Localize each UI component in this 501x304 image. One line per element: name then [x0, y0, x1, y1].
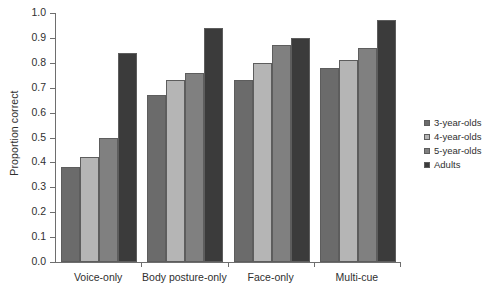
- bar: [377, 20, 396, 262]
- legend-swatch-icon: [424, 162, 430, 168]
- legend-label: Adults: [434, 159, 460, 170]
- bars-layer: [56, 13, 401, 262]
- bar: [147, 95, 166, 262]
- plot-area: 0.00.10.20.30.40.50.60.70.80.91.0 Voice-…: [55, 13, 400, 262]
- y-axis-tick-label: 1.0: [31, 6, 46, 18]
- x-axis-tick-mark: [141, 262, 142, 267]
- bar: [61, 167, 80, 262]
- y-axis-tick-mark: [50, 88, 55, 89]
- bar: [253, 63, 272, 262]
- legend-label: 5-year-olds: [434, 145, 482, 156]
- bar: [80, 157, 99, 262]
- y-axis-tick-mark: [50, 13, 55, 14]
- bar-chart-figure: Proportion correct 0.00.10.20.30.40.50.6…: [0, 0, 501, 304]
- legend-swatch-icon: [424, 148, 430, 154]
- y-axis-tick-mark: [50, 237, 55, 238]
- y-axis-tick-mark: [50, 187, 55, 188]
- bar: [185, 73, 204, 262]
- legend-label: 4-year-olds: [434, 131, 482, 142]
- y-axis-tick-label: 0.2: [31, 205, 46, 217]
- y-axis-tick-mark: [50, 162, 55, 163]
- y-axis-tick-label: 0.4: [31, 155, 46, 167]
- legend-swatch-icon: [424, 120, 430, 126]
- y-axis-tick-mark: [50, 38, 55, 39]
- legend: 3-year-olds4-year-olds5-year-oldsAdults: [424, 116, 501, 172]
- legend-item: Adults: [424, 158, 501, 171]
- x-axis-tick-mark: [314, 262, 315, 267]
- bar: [272, 45, 291, 262]
- x-axis-tick-label: Face-only: [228, 271, 314, 283]
- bar-group: [229, 13, 315, 262]
- x-axis-tick-label: Voice-only: [55, 271, 141, 283]
- bar: [291, 38, 310, 262]
- legend-item: 5-year-olds: [424, 144, 501, 157]
- y-axis-tick-label: 0.8: [31, 56, 46, 68]
- bar: [339, 60, 358, 262]
- y-axis-tick-label: 0.1: [31, 230, 46, 242]
- x-axis-tick-label: Body posture-only: [141, 271, 227, 283]
- bar: [166, 80, 185, 262]
- bar-group: [142, 13, 228, 262]
- legend-swatch-icon: [424, 134, 430, 140]
- bar: [358, 48, 377, 262]
- y-axis-tick-mark: [50, 138, 55, 139]
- bar: [320, 68, 339, 262]
- bar-group: [56, 13, 142, 262]
- x-axis-tick-mark: [228, 262, 229, 267]
- y-axis-tick-mark: [50, 63, 55, 64]
- y-axis-tick-label: 0.7: [31, 81, 46, 93]
- y-axis-tick-label: 0.6: [31, 106, 46, 118]
- y-axis-tick-mark: [50, 113, 55, 114]
- y-axis-tick-mark: [50, 212, 55, 213]
- legend-item: 4-year-olds: [424, 130, 501, 143]
- legend-label: 3-year-olds: [434, 117, 482, 128]
- y-axis-title: Proportion correct: [8, 53, 20, 213]
- y-axis-tick-label: 0.3: [31, 180, 46, 192]
- legend-item: 3-year-olds: [424, 116, 501, 129]
- y-axis-tick-label: 0.9: [31, 31, 46, 43]
- bar-group: [315, 13, 401, 262]
- bar: [234, 80, 253, 262]
- bar: [99, 138, 118, 263]
- x-axis-tick-mark: [400, 262, 401, 267]
- bar: [118, 53, 137, 262]
- bar: [204, 28, 223, 262]
- y-axis-tick-label: 0.5: [31, 131, 46, 143]
- x-axis-tick-label: Multi-cue: [314, 271, 400, 283]
- y-axis-tick-mark: [50, 262, 55, 263]
- y-axis-tick-label: 0.0: [31, 255, 46, 267]
